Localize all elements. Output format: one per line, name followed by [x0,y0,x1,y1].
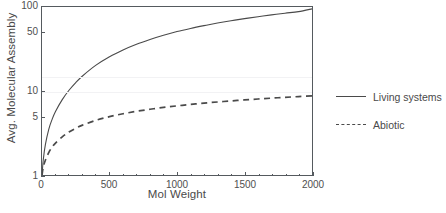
x-tick-mark-minor [150,174,151,177]
y-tick-mark [41,32,45,33]
y-tick-mark [41,176,45,177]
legend-label: Abiotic [373,119,405,131]
x-tick-mark-minor [136,174,137,177]
x-tick-mark-minor [259,174,260,177]
x-tick-mark-minor [218,174,219,177]
x-tick-mark-major [245,172,246,176]
x-tick-mark-major [313,172,314,176]
chart-figure: Avg. Molecular Assembly 151050100 050010… [0,0,446,213]
legend-swatch-line [336,96,366,97]
x-tick-mark-major [177,172,178,176]
x-tick-mark-minor [286,174,287,177]
x-tick-mark-minor [95,174,96,177]
x-tick-mark-minor [123,174,124,177]
x-tick-mark-minor [82,174,83,177]
x-tick-mark-minor [191,174,192,177]
x-tick-mark-minor [272,174,273,177]
chart-legend: Living systemsAbiotic [336,88,444,144]
x-tick-mark-minor [163,174,164,177]
y-tick-mark [41,91,45,92]
legend-swatch-line [336,124,366,125]
x-tick-mark-minor [231,174,232,177]
x-tick-mark-minor [55,174,56,177]
x-axis-title: Mol Weight [41,188,313,200]
y-tick-mark [41,6,45,7]
x-tick-mark-minor [204,174,205,177]
y-tick-mark [41,117,45,118]
legend-label: Living systems [373,91,442,103]
legend-swatch-dashed-line-icon [336,121,366,129]
x-tick-mark-minor [299,174,300,177]
x-tick-mark-minor [68,174,69,177]
x-tick-mark-major [109,172,110,176]
legend-item-abiotic[interactable]: Abiotic [336,116,444,133]
legend-swatch-solid-line-icon [336,93,366,101]
legend-item-living-systems[interactable]: Living systems [336,88,444,105]
